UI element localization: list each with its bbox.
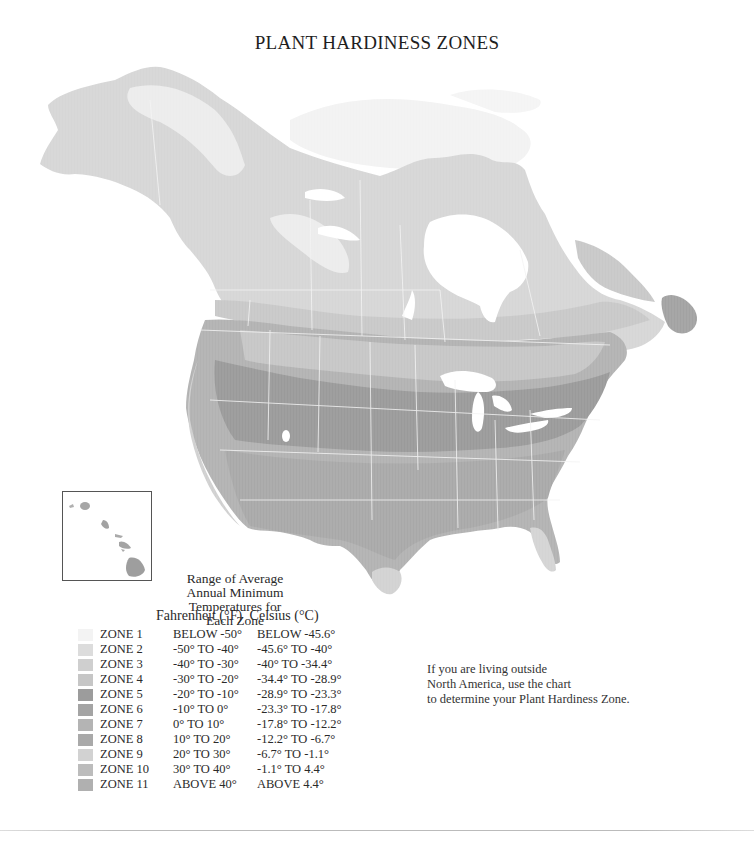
celsius-range: ABOVE 4.4° — [257, 777, 367, 792]
legend-row: ZONE 920° TO 30°-6.7° TO -1.1° — [78, 747, 367, 762]
fahrenheit-header: Fahrenheit (°F) — [156, 608, 242, 623]
fahrenheit-range: 20° TO 30° — [173, 747, 257, 762]
note-line: to determine your Plant Hardiness Zone. — [427, 692, 630, 707]
note-line: If you are living outside — [427, 662, 630, 677]
celsius-range: -45.6° TO -40° — [257, 642, 367, 657]
celsius-range: -6.7° TO -1.1° — [257, 747, 367, 762]
fahrenheit-range: -30° TO -20° — [173, 672, 257, 687]
legend-row: ZONE 6-10° TO 0°-23.3° TO -17.8° — [78, 702, 367, 717]
zone-swatch — [78, 629, 93, 641]
celsius-header: Celsius (°C) — [250, 608, 319, 623]
celsius-range: -34.4° TO -28.9° — [257, 672, 367, 687]
fahrenheit-range: -40° TO -30° — [173, 657, 257, 672]
caption-line: Annual Minimum — [140, 586, 330, 600]
zone-label: ZONE 1 — [100, 627, 173, 642]
zone-label: ZONE 5 — [100, 687, 173, 702]
fahrenheit-range: 10° TO 20° — [173, 732, 257, 747]
celsius-range: -23.3° TO -17.8° — [257, 702, 367, 717]
outside-na-note: If you are living outside North America,… — [427, 662, 630, 707]
zone-label: ZONE 8 — [100, 732, 173, 747]
zone-legend: ZONE 1BELOW -50°BELOW -45.6°ZONE 2-50° T… — [78, 627, 367, 792]
legend-row: ZONE 2-50° TO -40°-45.6° TO -40° — [78, 642, 367, 657]
zone-label: ZONE 2 — [100, 642, 173, 657]
fahrenheit-range: ABOVE 40° — [173, 777, 257, 792]
fahrenheit-range: 30° TO 40° — [173, 762, 257, 777]
zone-swatch — [78, 749, 93, 761]
celsius-range: -28.9° TO -23.3° — [257, 687, 367, 702]
legend-row: ZONE 5-20° TO -10°-28.9° TO -23.3° — [78, 687, 367, 702]
legend-row: ZONE 1BELOW -50°BELOW -45.6° — [78, 627, 367, 642]
hawaii-inset — [62, 491, 152, 581]
legend-row: ZONE 810° TO 20°-12.2° TO -6.7° — [78, 732, 367, 747]
zone-label: ZONE 10 — [100, 762, 173, 777]
legend-row: ZONE 3-40° TO -30°-40° TO -34.4° — [78, 657, 367, 672]
fahrenheit-range: BELOW -50° — [173, 627, 257, 642]
zone-swatch — [78, 689, 93, 701]
zone-label: ZONE 6 — [100, 702, 173, 717]
footer-divider — [0, 830, 754, 831]
zone-label: ZONE 4 — [100, 672, 173, 687]
zone-label: ZONE 3 — [100, 657, 173, 672]
hawaii-map — [63, 492, 151, 580]
legend-row: ZONE 70° TO 10°-17.8° TO -12.2° — [78, 717, 367, 732]
zone-label: ZONE 11 — [100, 777, 173, 792]
zone-swatch — [78, 764, 93, 776]
zone-label: ZONE 7 — [100, 717, 173, 732]
zone-label: ZONE 9 — [100, 747, 173, 762]
zone-swatch — [78, 704, 93, 716]
celsius-range: -40° TO -34.4° — [257, 657, 367, 672]
zone-swatch — [78, 644, 93, 656]
note-line: North America, use the chart — [427, 677, 630, 692]
celsius-range: -17.8° TO -12.2° — [257, 717, 367, 732]
fahrenheit-range: -20° TO -10° — [173, 687, 257, 702]
zone-swatch — [78, 779, 93, 791]
zone-swatch — [78, 674, 93, 686]
legend-row: ZONE 1030° TO 40°-1.1° TO 4.4° — [78, 762, 367, 777]
celsius-range: -12.2° TO -6.7° — [257, 732, 367, 747]
legend-row: ZONE 11ABOVE 40°ABOVE 4.4° — [78, 777, 367, 792]
legend-row: ZONE 4-30° TO -20°-34.4° TO -28.9° — [78, 672, 367, 687]
celsius-range: -1.1° TO 4.4° — [257, 762, 367, 777]
celsius-range: BELOW -45.6° — [257, 627, 367, 642]
zone-swatch — [78, 719, 93, 731]
fahrenheit-range: -10° TO 0° — [173, 702, 257, 717]
caption-line: Range of Average — [140, 572, 330, 586]
zone-swatch — [78, 734, 93, 746]
units-header: Fahrenheit (°F) Celsius (°C) — [156, 608, 319, 624]
zone-swatch — [78, 659, 93, 671]
fahrenheit-range: -50° TO -40° — [173, 642, 257, 657]
fahrenheit-range: 0° TO 10° — [173, 717, 257, 732]
